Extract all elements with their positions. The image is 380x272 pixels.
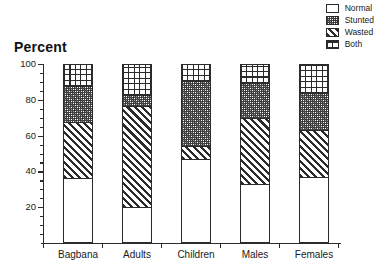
bar-segment-both <box>300 65 328 93</box>
bar-segment-stunted <box>241 83 269 118</box>
bar-bagbana[interactable] <box>63 64 93 243</box>
legend-item-normal[interactable]: Normal <box>326 4 374 13</box>
bar-segment-wasted <box>123 106 151 207</box>
bar-segment-wasted <box>241 118 269 183</box>
stacked-bar-chart: Percent 20 40 60 80 100 <box>0 0 380 272</box>
x-axis-tick <box>161 243 162 248</box>
x-label-females: Females <box>295 250 333 260</box>
y-minor-tick <box>40 234 43 235</box>
y-tick-label-40: 40 <box>25 167 36 177</box>
bar-segment-normal <box>64 178 92 242</box>
x-label-children: Children <box>177 250 214 260</box>
x-axis-tick <box>338 243 339 248</box>
legend-label-both: Both <box>345 40 363 49</box>
y-tick-label-80: 80 <box>25 95 36 105</box>
x-label-bagbana: Bagbana <box>58 250 98 260</box>
y-tick-label-20: 20 <box>25 202 36 212</box>
swatch-stipple-icon <box>326 16 339 25</box>
bar-females[interactable] <box>299 64 329 243</box>
bar-segment-stunted <box>182 81 210 146</box>
bar-segment-normal <box>300 177 328 243</box>
bar-segment-stunted <box>123 95 151 106</box>
bar-segment-normal <box>182 159 210 242</box>
plot-area: 20 40 60 80 100 <box>43 64 340 243</box>
bar-segment-wasted <box>64 122 92 179</box>
bar-adults[interactable] <box>122 64 152 243</box>
bar-segment-both <box>241 65 269 83</box>
y-axis-title: Percent <box>14 39 67 55</box>
x-axis-tick <box>220 243 221 248</box>
bar-segment-stunted <box>64 86 92 121</box>
y-minor-tick <box>40 73 43 74</box>
legend-label-wasted: Wasted <box>345 28 374 37</box>
swatch-empty-icon <box>326 4 339 13</box>
legend-label-stunted: Stunted <box>345 16 374 25</box>
x-axis-tick <box>102 243 103 248</box>
y-minor-tick <box>40 162 43 163</box>
y-minor-tick <box>40 225 43 226</box>
chart-legend: Normal Stunted Wasted Both <box>326 4 374 49</box>
y-minor-tick <box>40 109 43 110</box>
y-minor-tick <box>40 82 43 83</box>
y-minor-tick <box>40 198 43 199</box>
y-minor-tick <box>40 216 43 217</box>
bar-segment-both <box>182 65 210 81</box>
y-tick-label-100: 100 <box>20 59 36 69</box>
x-axis-line <box>41 243 341 244</box>
y-minor-tick <box>40 189 43 190</box>
legend-label-normal: Normal <box>345 4 372 13</box>
bar-segment-stunted <box>300 93 328 130</box>
x-axis-tick <box>43 243 44 248</box>
swatch-crosshatch-icon <box>326 40 339 49</box>
y-tick-label-60: 60 <box>25 131 36 141</box>
y-minor-tick <box>40 118 43 119</box>
bar-segment-wasted <box>300 130 328 176</box>
swatch-diagonal-icon <box>326 28 339 37</box>
bar-segment-normal <box>123 207 151 242</box>
bar-segment-both <box>64 65 92 86</box>
x-label-adults: Adults <box>123 250 151 260</box>
legend-item-both[interactable]: Both <box>326 40 374 49</box>
bar-segment-normal <box>241 184 269 242</box>
y-minor-tick <box>40 154 43 155</box>
bar-males[interactable] <box>240 64 270 243</box>
bar-segment-both <box>123 65 151 95</box>
bar-segment-wasted <box>182 146 210 158</box>
y-minor-tick <box>40 145 43 146</box>
y-axis-line <box>43 64 44 243</box>
y-minor-tick <box>40 127 43 128</box>
legend-item-stunted[interactable]: Stunted <box>326 16 374 25</box>
y-minor-tick <box>40 91 43 92</box>
x-label-males: Males <box>242 250 269 260</box>
bar-children[interactable] <box>181 64 211 243</box>
y-minor-tick <box>40 180 43 181</box>
x-axis-tick <box>279 243 280 248</box>
legend-item-wasted[interactable]: Wasted <box>326 28 374 37</box>
